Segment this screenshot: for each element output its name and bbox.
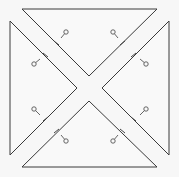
triangle-pieces: [10, 9, 169, 167]
diagram-canvas: [0, 0, 179, 177]
